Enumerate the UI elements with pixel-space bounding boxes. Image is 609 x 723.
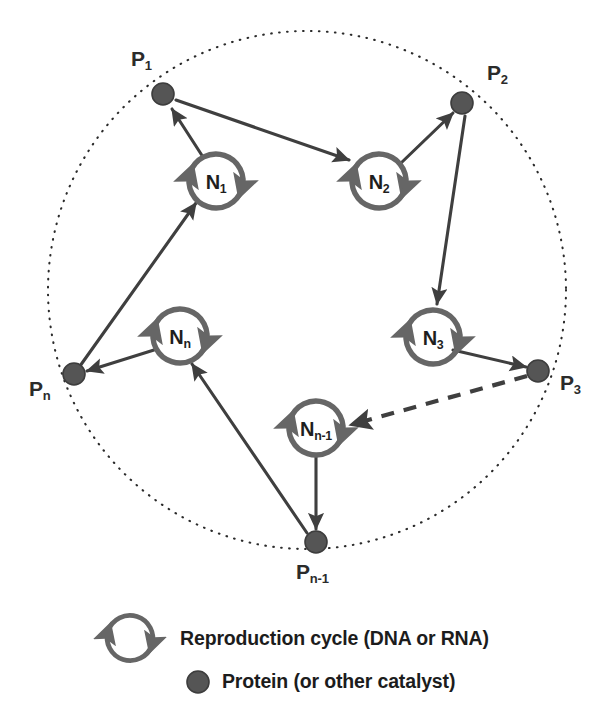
cycle-label-Nn1: Nn-1 [300,419,332,439]
protein-label-P2: P2 [487,62,508,83]
subscript: n-1 [314,429,332,443]
protein-node-P2 [451,92,473,114]
subscript: n-1 [310,571,329,586]
protein-node-Pn [63,363,85,385]
cycle-arc-lower [107,631,152,661]
protein-label-Pn: Pn [29,378,51,399]
cycle-node-layer [153,154,460,455]
subscript: n [43,388,51,403]
protein-label-Pn1: Pn-1 [296,561,329,582]
protein-node-P1 [152,83,174,105]
protein-node-P3 [527,360,549,382]
protein-node-Pn1 [305,531,327,553]
arrow-P3-to-Nn1 [350,376,527,425]
arrow-Pn1-to-Nn [192,364,307,533]
cycle-label-Nn: Nn [169,327,190,347]
legend-protein-dot-icon [187,671,209,693]
cycle-arc-upper [108,615,153,645]
arrow-N3-to-P3 [453,350,526,367]
diagram-canvas: P1P2P3Pn-1PnN1N2N3Nn-1NnReproduction cyc… [0,0,609,723]
cycle-label-N1: N1 [206,172,227,192]
protein-label-P1: P1 [131,48,152,69]
protein-node-layer [63,83,549,553]
subscript: 1 [220,182,227,196]
boundary-circle [48,31,566,549]
subscript: 2 [383,182,390,196]
diagram-graphics [0,0,609,723]
legend-reproduction-cycle-icon [107,615,153,660]
legend-cycle-label: Reproduction cycle (DNA or RNA) [180,629,489,649]
arrow-P2-to-N3 [437,116,465,304]
arrow-N1-to-P1 [172,109,203,157]
arrow-layer [80,100,527,533]
legend-protein-label: Protein (or other catalyst) [222,672,455,692]
subscript: 1 [145,58,152,73]
protein-label-P3: P3 [560,372,581,393]
subscript: 3 [574,382,581,397]
arrow-N2-to-P2 [401,113,453,163]
cycle-label-N3: N3 [423,328,444,348]
arrow-Nn-to-Pn [87,350,154,371]
subscript: 2 [501,72,508,87]
subscript: 3 [437,338,444,352]
arrow-P1-to-N2 [176,100,349,160]
cycle-label-N2: N2 [369,172,390,192]
subscript: n [183,337,190,351]
